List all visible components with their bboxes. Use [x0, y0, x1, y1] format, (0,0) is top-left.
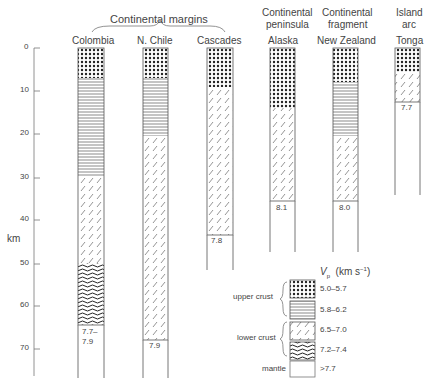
- group-continental-margins: Continental margins: [110, 13, 208, 25]
- legend-mantle: mantle: [262, 364, 286, 373]
- column-label-n-chile: N. Chile: [137, 35, 173, 46]
- legend-units-close: ): [367, 266, 370, 277]
- legend-value-1: 5.0–5.7: [320, 284, 347, 293]
- legend-units-sup: −1: [360, 266, 367, 272]
- tick-0: 0: [24, 42, 28, 51]
- tick-20: 20: [20, 128, 29, 137]
- legend-title: Vp (km s−1): [320, 266, 370, 279]
- axis-label-km: km: [7, 233, 20, 244]
- column-label-colombia: Colombia: [72, 35, 114, 46]
- group-continental-peninsula-1: Continental: [262, 7, 313, 18]
- legend-value-3: 6.5–7.0: [320, 325, 347, 334]
- tick-40: 40: [20, 214, 29, 223]
- legend-value-4: 7.2–7.4: [320, 345, 347, 354]
- mantle-velocity-n-chile: 7.9: [149, 341, 160, 350]
- group-continental-peninsula-2: peninsula: [266, 19, 309, 30]
- legend-vp: V: [320, 266, 327, 277]
- column-label-tonga: Tonga: [396, 35, 423, 46]
- group-continental-fragment-1: Continental: [322, 7, 373, 18]
- tick-70: 70: [20, 343, 29, 352]
- tick-30: 30: [20, 172, 29, 181]
- column-label-new-zealand: New Zealand: [317, 35, 376, 46]
- group-island-arc-2: arc: [402, 19, 416, 30]
- legend-value-2: 5.8–6.2: [320, 305, 347, 314]
- legend-vp-sub: p: [327, 273, 330, 279]
- legend-units: (km s: [336, 266, 360, 277]
- legend-value-5: >7.7: [320, 364, 336, 373]
- column-label-cascades: Cascades: [197, 35, 241, 46]
- mantle-velocity-alaska: 8.1: [276, 203, 287, 212]
- mantle-velocity-colombia: 7.7–: [82, 327, 98, 336]
- group-island-arc-1: Island: [396, 7, 423, 18]
- tick-60: 60: [20, 300, 29, 309]
- mantle-velocity-cascades: 7.8: [211, 236, 222, 245]
- mantle-velocity-new-zealand: 8.0: [339, 203, 350, 212]
- mantle-velocity-tonga: 7.7: [401, 103, 412, 112]
- crustal-structure-figure: Continental margins Continental peninsul…: [0, 0, 428, 383]
- legend-upper-crust: upper crust: [233, 292, 273, 301]
- group-continental-fragment-2: fragment: [328, 19, 367, 30]
- column-label-alaska: Alaska: [268, 35, 298, 46]
- legend-lower-crust: lower crust: [237, 333, 276, 342]
- tick-50: 50: [20, 258, 29, 267]
- columns-svg: [0, 0, 428, 383]
- mantle-velocity-colombia-2: 7.9: [82, 337, 93, 346]
- tick-10: 10: [20, 85, 29, 94]
